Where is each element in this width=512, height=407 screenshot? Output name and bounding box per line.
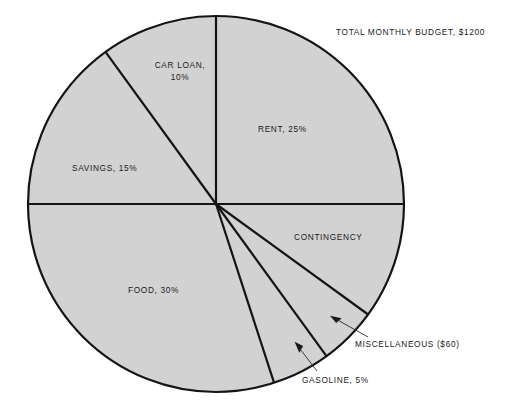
- slice-label-gasoline: GASOLINE, 5%: [302, 375, 369, 386]
- slice-label-food: FOOD, 30%: [128, 285, 179, 296]
- slice-label-miscellaneous: MISCELLANEOUS ($60): [355, 339, 460, 350]
- slice-label-car-loan-line2: 10%: [171, 72, 190, 82]
- slice-label-contingency: CONTINGENCY: [294, 232, 362, 243]
- chart-title: TOTAL MONTHLY BUDGET, $1200: [336, 27, 485, 38]
- slice-label-car-loan: CAR LOAN, 10%: [138, 60, 222, 83]
- pie-chart-figure: TOTAL MONTHLY BUDGET, $1200 CAR LOAN, 10…: [0, 0, 512, 407]
- slice-label-savings: SAVINGS, 15%: [72, 163, 137, 174]
- slice-label-car-loan-line1: CAR LOAN,: [155, 60, 206, 70]
- slice-label-rent: RENT, 25%: [258, 124, 307, 135]
